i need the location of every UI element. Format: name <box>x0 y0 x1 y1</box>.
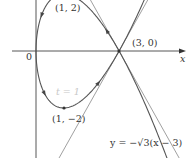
origin-label: 0 <box>26 51 32 62</box>
parametric-curve-figure: 0 x (1, 2) (3, 0) (1, −2) t = 1 y = −√3(… <box>0 0 196 158</box>
direction-arrow-icon <box>39 12 45 19</box>
direction-arrow-icon <box>41 90 47 97</box>
point-1-neg2 <box>62 106 65 109</box>
point-label-3-0: (3, 0) <box>132 37 158 48</box>
tangent-lines <box>55 0 182 158</box>
point-label-1-neg2: (1, −2) <box>52 113 86 124</box>
point-label-1-2: (1, 2) <box>55 2 81 13</box>
parameter-label: t = 1 <box>56 86 80 97</box>
tangent-equation-label: y = −√3(x − 3) <box>109 137 182 148</box>
tangent-line-negative <box>55 0 182 158</box>
x-axis-label: x <box>180 53 186 64</box>
curve <box>36 0 183 158</box>
direction-arrows <box>39 12 110 97</box>
axes <box>12 0 186 158</box>
tangent-line-positive <box>55 0 182 158</box>
point-3-0 <box>117 49 120 52</box>
